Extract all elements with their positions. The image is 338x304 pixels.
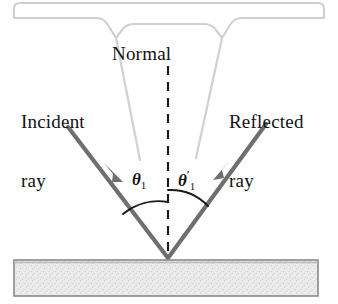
- label-incident-ray: Incident ray: [21, 72, 85, 230]
- theta-subscript-reflection: 1: [190, 180, 196, 192]
- label-reflected-line2: ray: [229, 171, 304, 191]
- top-bracket: [14, 3, 324, 38]
- theta-symbol-incidence: θ: [132, 170, 141, 189]
- label-reflected-line1: Reflected: [229, 112, 304, 132]
- label-reflected-ray: Reflected ray: [229, 72, 304, 230]
- theta-symbol-reflection: θ: [178, 171, 187, 190]
- label-normal: Normal: [112, 44, 171, 64]
- label-incident-line1: Incident: [21, 112, 85, 132]
- angle-arc-reflection: [168, 190, 208, 206]
- label-incident-line2: ray: [21, 171, 85, 191]
- mirror-surface: [14, 260, 318, 296]
- angle-label-reflection: θ′1: [178, 167, 195, 192]
- right-leader-line: [196, 38, 222, 158]
- reflection-diagram: Normal Incident ray Reflected ray θ1 θ′1: [0, 0, 338, 304]
- angle-label-incidence: θ1: [132, 170, 146, 191]
- theta-subscript-incidence: 1: [141, 179, 147, 191]
